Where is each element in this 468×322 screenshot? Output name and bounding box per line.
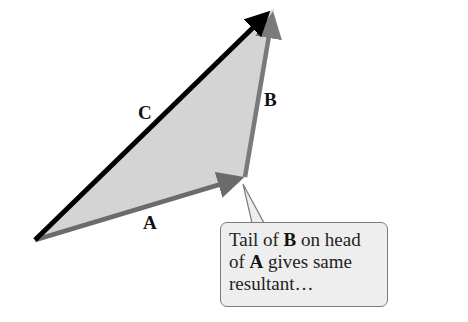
- callout-bold-B: B: [284, 229, 297, 250]
- callout-text-1: Tail of: [229, 229, 284, 250]
- label-C: C: [138, 103, 152, 122]
- label-A: A: [143, 213, 157, 232]
- callout-bold-A: A: [250, 251, 264, 272]
- callout-pointer: [243, 184, 264, 223]
- vector-diagram: C B A Tail of B on head of A gives same …: [0, 0, 468, 322]
- callout-box: Tail of B on head of A gives same result…: [220, 222, 388, 307]
- label-B: B: [264, 90, 277, 109]
